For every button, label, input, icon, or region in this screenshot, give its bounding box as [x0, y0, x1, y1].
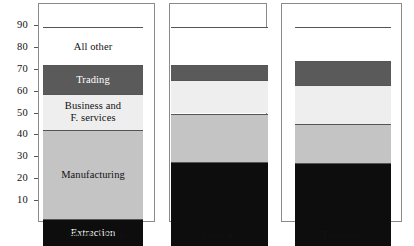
- bar-ghana: [171, 27, 268, 246]
- bar-south-africa: ExtractionManufacturingBusiness and F. s…: [43, 27, 143, 246]
- y-tick-mark: [34, 69, 38, 70]
- y-tick-label: 40: [17, 129, 28, 140]
- stacked-bar-chart: 102030405060708090 ExtractionManufacturi…: [0, 0, 414, 246]
- bar-segment-all-other: [295, 27, 391, 61]
- x-axis-label-south-africa: South Africa: [38, 228, 155, 240]
- y-tick-label: 90: [17, 20, 28, 31]
- y-tick-label: 30: [17, 151, 28, 162]
- bar-segment-all-other: [171, 27, 268, 65]
- bar-tanzania: [295, 27, 391, 246]
- y-tick-mark: [34, 134, 38, 135]
- y-tick-label: 60: [17, 85, 28, 96]
- bar-segment-trading: [171, 65, 268, 79]
- bar-segment-all-other: All other: [43, 27, 143, 65]
- y-tick-label: 10: [17, 195, 28, 206]
- segment-label: All other: [72, 41, 115, 53]
- y-tick-label: 70: [17, 63, 28, 74]
- bar-segment-trading: [295, 61, 391, 85]
- y-tick-mark: [34, 91, 38, 92]
- y-tick-mark: [34, 113, 38, 114]
- bar-segment-business-and-f-services: [295, 85, 391, 124]
- bar-segment-manufacturing: Manufacturing: [43, 130, 143, 219]
- y-axis: 102030405060708090: [0, 0, 34, 246]
- segment-label: Trading: [74, 74, 112, 86]
- x-axis-label-tanzania: Tanzania: [281, 228, 402, 240]
- x-axis-label-ghana: Ghana: [169, 228, 267, 240]
- y-tick-mark: [34, 25, 38, 26]
- y-tick-label: 20: [17, 173, 28, 184]
- bar-segment-business-and-f-services: Business and F. services: [43, 94, 143, 130]
- bar-segment-business-and-f-services: [171, 80, 268, 114]
- y-tick-mark: [34, 47, 38, 48]
- bar-segment-manufacturing: [171, 114, 268, 162]
- y-tick-mark: [34, 200, 38, 201]
- y-tick-mark: [34, 156, 38, 157]
- bar-segment-trading: Trading: [43, 65, 143, 93]
- bar-segment-manufacturing: [295, 124, 391, 162]
- y-tick-mark: [34, 178, 38, 179]
- segment-label: Manufacturing: [59, 169, 127, 181]
- y-tick-label: 50: [17, 107, 28, 118]
- segment-label: Business and F. services: [63, 100, 123, 124]
- y-tick-label: 80: [17, 42, 28, 53]
